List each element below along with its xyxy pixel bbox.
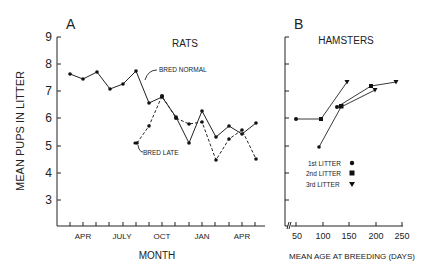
svg-text:JULY: JULY (113, 232, 133, 241)
bred-normal-leader (145, 70, 157, 80)
svg-text:3: 3 (45, 193, 52, 207)
bred-normal-line (70, 71, 256, 143)
svg-text:APR: APR (234, 232, 251, 241)
svg-text:8: 8 (45, 57, 52, 71)
svg-text:OCT: OCT (154, 232, 171, 241)
svg-text:150: 150 (341, 231, 356, 241)
x-tick-labels-month: APR JULY OCT JAN APR (75, 232, 251, 241)
svg-text:JAN: JAN (194, 232, 209, 241)
bred-normal-annotation: BRED NORMAL (159, 66, 207, 73)
panel-b-letter: B (294, 16, 303, 32)
legend: 1st LITTER 2nd LITTER 3rd LITTER (306, 160, 355, 188)
panel-a-letter: A (66, 16, 76, 32)
hamster-lines (296, 82, 396, 147)
svg-text:7: 7 (45, 84, 52, 98)
square-marker-icon (350, 171, 355, 176)
svg-text:250: 250 (394, 231, 409, 241)
circle-marker-icon (350, 161, 354, 165)
figure: A B MEAN PUPS IN LITTER 9 8 7 6 5 (0, 0, 425, 275)
panel-b-axes (285, 37, 403, 229)
hamsters-title: HAMSTERS (318, 35, 374, 46)
svg-text:50: 50 (292, 231, 302, 241)
svg-text:APR: APR (75, 232, 92, 241)
bred-normal-points (68, 69, 258, 145)
legend-2nd-litter: 2nd LITTER (306, 170, 341, 177)
svg-text:9: 9 (45, 30, 52, 44)
y-tick-labels: 9 8 7 6 5 4 3 (45, 30, 52, 207)
rats-title: RATS (172, 38, 198, 49)
svg-text:200: 200 (368, 231, 383, 241)
x-axis-label-age: MEAN AGE AT BREEDING (DAYS) (289, 252, 415, 261)
x-axis-label-month: MONTH (139, 250, 176, 261)
svg-text:100: 100 (315, 231, 330, 241)
svg-text:4: 4 (45, 166, 52, 180)
svg-text:6: 6 (45, 111, 52, 125)
y-axis-label: MEAN PUPS IN LITTER (14, 71, 26, 191)
hamster-markers (294, 80, 399, 149)
x-tick-labels-age: 50 100 150 200 250 (292, 231, 410, 241)
svg-text:5: 5 (45, 139, 52, 153)
legend-3rd-litter: 3rd LITTER (306, 181, 340, 188)
bred-late-annotation: BRED LATE (143, 149, 179, 156)
triangle-marker-icon (349, 182, 355, 187)
legend-1st-litter: 1st LITTER (308, 160, 341, 167)
